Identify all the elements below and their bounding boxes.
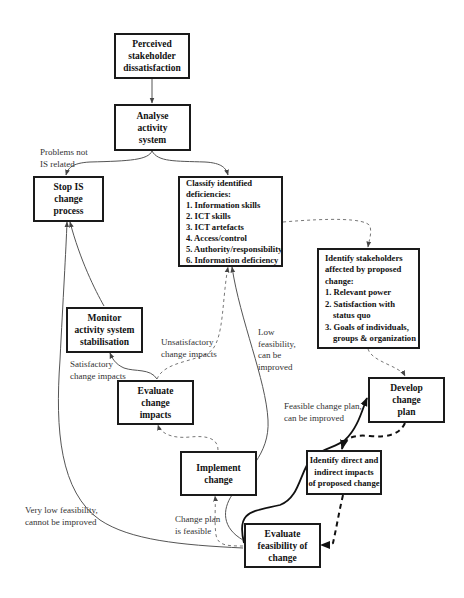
node-stop-is-change-process: Stop IS change process [33, 176, 104, 222]
node-text: activity system [75, 324, 135, 336]
node-text: change [141, 397, 170, 409]
deficiency-item: 3. ICT artefacts [186, 222, 244, 233]
node-text: indirect impacts [314, 467, 373, 479]
node-text: Perceived [132, 38, 171, 50]
edge-label-unsatisfactory: Unsatisfactory change impacts [161, 337, 217, 360]
edge-classify-to-stakeholders [283, 219, 371, 247]
node-evaluate-feasibility: Evaluate feasibility of change [244, 523, 321, 568]
node-identify-stakeholders: Identify stakeholders affected by propos… [317, 248, 420, 349]
edge-analyse-to-classify [152, 151, 228, 175]
node-text: feasibility of [258, 540, 308, 552]
node-text: stabilisation [80, 336, 129, 348]
label-line: Problems not [40, 147, 88, 159]
diagram-canvas: Perceived stakeholder dissatisfaction An… [0, 0, 464, 598]
label-line: cannot be improved [25, 517, 98, 529]
edge-monitor-to-stop [70, 222, 104, 306]
edge-label-satisfactory: Satisfactory change impacts [70, 359, 126, 382]
label-line: can be [258, 350, 296, 362]
node-text: change [392, 394, 421, 406]
stakeholder-item: 1. Relevant power [325, 287, 391, 299]
stakeholder-item: 3. Goals of individuals, [325, 322, 409, 334]
node-text: change [204, 474, 233, 486]
label-line: is feasible [175, 526, 220, 538]
deficiency-item: 6. Information deficiency [186, 255, 278, 266]
deficiency-item: 2. ICT skills [186, 211, 231, 222]
edge-label-very-low-feasibility: Very low feasibility, cannot be improved [25, 505, 98, 528]
node-text: Develop [390, 382, 423, 394]
label-line: feasibility, [258, 339, 296, 351]
node-text: stakeholder [128, 50, 176, 62]
stakeholder-item: groups & organization [325, 333, 416, 345]
node-text: of proposed change [309, 478, 380, 490]
node-text: Implement [196, 462, 240, 474]
edge-identify-to-feasibility [321, 495, 343, 545]
node-text: activity [137, 122, 167, 134]
node-text: Identify direct and [310, 455, 379, 467]
label-line: change impacts [70, 371, 126, 383]
deficiency-item: 5. Authority/responsibility [186, 244, 282, 255]
node-heading: Classify identified [186, 178, 252, 189]
node-classify-deficiencies: Classify identified deficiencies: 1. Inf… [178, 176, 283, 267]
node-text: dissatisfaction [123, 62, 181, 74]
node-perceived-dissatisfaction: Perceived stakeholder dissatisfaction [114, 33, 190, 79]
node-text: change [54, 193, 83, 205]
edge-evaluate-to-classify [157, 267, 228, 379]
node-heading: change: [325, 276, 354, 288]
edge-develop-to-identify [342, 423, 405, 449]
label-line: Change plan [175, 514, 220, 526]
deficiency-item: 1. Information skills [186, 200, 260, 211]
label-line: Low [258, 327, 296, 339]
label-line: Very low feasibility, [25, 505, 98, 517]
node-text: Evaluate [138, 385, 174, 397]
node-text: Monitor [88, 312, 122, 324]
node-heading: affected by proposed [325, 264, 401, 276]
node-develop-change-plan: Develop change plan [368, 377, 445, 423]
label-line: IS related [40, 159, 88, 171]
node-heading: Identify stakeholders [325, 253, 403, 265]
node-monitor-stabilisation: Monitor activity system stabilisation [66, 307, 143, 353]
label-line: can be improved [284, 413, 362, 425]
node-text: Stop IS [54, 181, 84, 193]
edge-stakeholders-to-develop [368, 349, 405, 376]
node-text: Analyse [136, 110, 168, 122]
node-text: plan [398, 406, 416, 418]
node-text: impacts [140, 409, 172, 421]
label-line: change impacts [161, 349, 217, 361]
node-heading: deficiencies: [186, 189, 231, 200]
edge-label-feasible-plan-improvable: Feasible change plan, can be improved [284, 401, 362, 424]
node-implement-change: Implement change [180, 451, 257, 496]
node-text: system [139, 134, 166, 146]
label-line: Feasible change plan, [284, 401, 362, 413]
node-analyse-activity-system: Analyse activity system [114, 104, 191, 151]
deficiency-item: 4. Access/control [186, 233, 247, 244]
node-text: Evaluate [265, 528, 301, 540]
stakeholder-item: status quo [325, 310, 371, 322]
edge-label-change-plan-feasible: Change plan is feasible [175, 514, 220, 537]
edge-label-problems-not-is-related: Problems not IS related [40, 147, 88, 170]
stakeholder-item: 2. Satisfaction with [325, 299, 395, 311]
label-line: Unsatisfactory [161, 337, 217, 349]
node-identify-impacts: Identify direct and indirect impacts of … [306, 450, 382, 495]
edge-label-low-feasibility: Low feasibility, can be improved [258, 327, 296, 373]
node-evaluate-change-impacts: Evaluate change impacts [117, 380, 194, 425]
node-text: process [54, 205, 84, 217]
edge-implement-to-evaluate-impacts [158, 425, 218, 450]
label-line: Satisfactory [70, 359, 126, 371]
label-line: improved [258, 362, 296, 374]
node-text: change [268, 552, 297, 564]
edge-feasibility-to-classify [226, 267, 269, 540]
